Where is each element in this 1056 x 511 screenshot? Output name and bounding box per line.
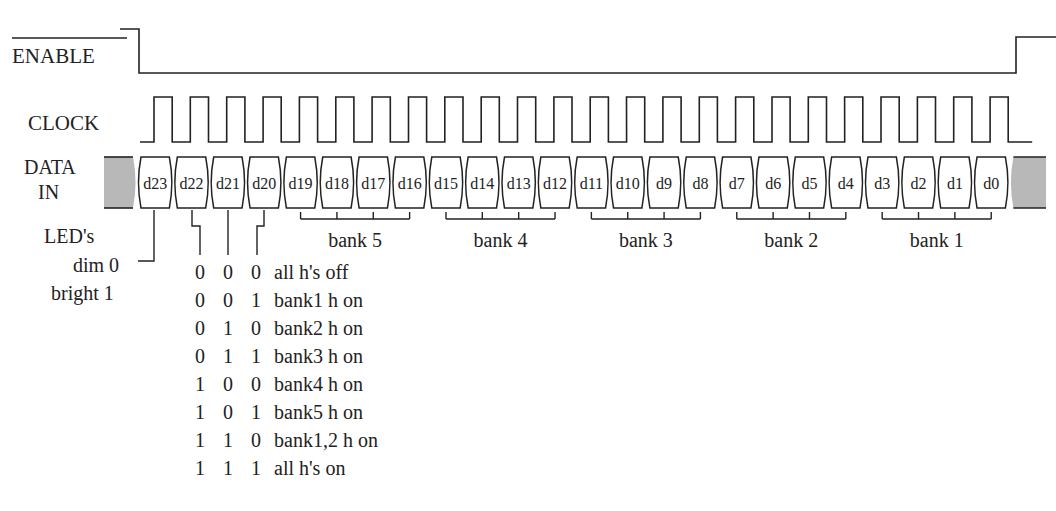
data-bit-cell-d13: d13	[502, 157, 535, 208]
bit-value-d20: 0	[251, 429, 261, 451]
truth-table-row: 110bank1,2 h on	[195, 429, 378, 451]
data-bit-cell-d1: d1	[938, 157, 971, 208]
bit-value-d21: 1	[223, 429, 233, 451]
data-in-label-line1: DATA	[24, 156, 76, 178]
data-bit-label: d2	[911, 175, 927, 192]
data-bit-label: d22	[180, 175, 204, 192]
data-bit-cell-d10: d10	[611, 157, 644, 208]
data-bit-cell-d19: d19	[284, 157, 317, 208]
bit-value-d22: 0	[195, 345, 205, 367]
bit-value-d20: 0	[251, 373, 261, 395]
bit-value-d20: 1	[251, 457, 261, 479]
bank-label: bank 5	[328, 229, 382, 251]
data-bit-label: d7	[729, 175, 745, 192]
bank-bracket-bank-1: bank 1	[882, 212, 991, 251]
bit-value-d22: 1	[195, 457, 205, 479]
row-meaning: bank1 h on	[274, 289, 363, 311]
data-bit-label: d13	[507, 175, 531, 192]
clock-label: CLOCK	[28, 111, 99, 135]
data-bit-cell-d15: d15	[429, 157, 462, 208]
data-bit-label: d16	[398, 175, 422, 192]
truth-table-row: 101bank5 h on	[195, 401, 363, 423]
data-bit-cell-d23: d23	[139, 157, 172, 208]
data-bit-cell-d4: d4	[829, 157, 862, 208]
idle-end-block	[1011, 157, 1046, 208]
truth-table-row: 010bank2 h on	[195, 317, 363, 339]
bank-bracket-bank-3: bank 3	[591, 212, 700, 251]
row-meaning: bank4 h on	[274, 373, 363, 395]
data-in-signal: DATA IN d23d22d21d20d19d18d17d16d15d14d1…	[24, 156, 1046, 208]
bit-value-d22: 1	[195, 429, 205, 451]
data-bit-label: d6	[765, 175, 781, 192]
bank-bracket-bank-5: bank 5	[301, 212, 410, 251]
bank-bracket-bank-2: bank 2	[737, 212, 846, 251]
data-bit-label: d12	[543, 175, 567, 192]
enable-waveform	[120, 29, 1056, 73]
truth-table-row: 001bank1 h on	[195, 289, 363, 311]
bank-label: bank 3	[619, 229, 673, 251]
d23-connector	[138, 210, 154, 261]
data-bit-cell-d6: d6	[756, 157, 789, 208]
data-bit-cell-d12: d12	[538, 157, 571, 208]
data-bit-cell-d0: d0	[975, 157, 1008, 208]
bit-value-d21: 1	[223, 317, 233, 339]
bit-value-d21: 0	[223, 401, 233, 423]
data-bit-label: d14	[470, 175, 494, 192]
data-bit-cell-d18: d18	[320, 157, 353, 208]
bank-label: bank 2	[764, 229, 818, 251]
d20-connector	[257, 210, 264, 255]
bit-value-d21: 0	[223, 261, 233, 283]
data-bit-label: d9	[656, 175, 672, 192]
bit-value-d22: 1	[195, 373, 205, 395]
data-bit-label: d1	[947, 175, 963, 192]
row-meaning: bank3 h on	[274, 345, 363, 367]
bit-value-d22: 1	[195, 401, 205, 423]
bank-label: bank 1	[910, 229, 964, 251]
data-bit-cell-d11: d11	[575, 157, 608, 208]
data-bit-label: d20	[252, 175, 276, 192]
clock-waveform	[140, 97, 1032, 142]
bit-value-d22: 0	[195, 289, 205, 311]
led-title: LED's	[44, 225, 94, 247]
bit-value-d20: 0	[251, 317, 261, 339]
bit-value-d21: 0	[223, 289, 233, 311]
d22-connector	[192, 210, 200, 255]
clock-signal: CLOCK	[28, 97, 1032, 142]
truth-table: 000all h's off001bank1 h on010bank2 h on…	[195, 261, 378, 479]
data-bit-label: d21	[216, 175, 240, 192]
data-bit-cell-d3: d3	[866, 157, 899, 208]
data-bit-cell-d8: d8	[684, 157, 717, 208]
data-bit-label: d23	[143, 175, 167, 192]
data-bit-cell-d20: d20	[248, 157, 281, 208]
data-bit-cell-d17: d17	[357, 157, 390, 208]
bit-value-d20: 1	[251, 345, 261, 367]
data-bit-label: d11	[580, 175, 603, 192]
data-bit-label: d0	[983, 175, 999, 192]
row-meaning: all h's off	[274, 261, 349, 283]
data-bit-cell-d5: d5	[793, 157, 826, 208]
bit-value-d21: 0	[223, 373, 233, 395]
data-bit-label: d4	[838, 175, 854, 192]
bit-value-d22: 0	[195, 317, 205, 339]
data-bit-cell-d16: d16	[393, 157, 426, 208]
enable-label: ENABLE	[12, 44, 95, 68]
data-bit-cell-d21: d21	[211, 157, 244, 208]
bank-brackets: bank 5bank 4bank 3bank 2bank 1	[301, 212, 992, 251]
led-dim-label: dim 0	[73, 254, 119, 276]
truth-table-row: 011bank3 h on	[195, 345, 363, 367]
bank-label: bank 4	[474, 229, 528, 251]
data-bit-label: d15	[434, 175, 458, 192]
timing-diagram: ENABLE CLOCK DATA IN d23d22d21d20d19d18d…	[0, 0, 1056, 511]
bit-value-d22: 0	[195, 261, 205, 283]
idle-start-block	[104, 157, 136, 208]
data-bit-label: d3	[874, 175, 890, 192]
truth-table-row: 000all h's off	[195, 261, 349, 283]
data-bit-cell-d9: d9	[647, 157, 680, 208]
row-meaning: all h's on	[274, 457, 345, 479]
data-bit-label: d19	[289, 175, 313, 192]
data-bit-label: d8	[692, 175, 708, 192]
enable-signal: ENABLE	[12, 29, 1056, 73]
bit-value-d21: 1	[223, 345, 233, 367]
bit-value-d20: 0	[251, 261, 261, 283]
data-bit-label: d18	[325, 175, 349, 192]
